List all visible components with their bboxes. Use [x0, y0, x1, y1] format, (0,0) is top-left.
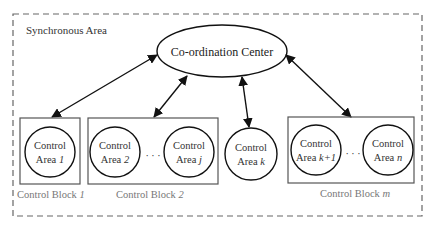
- control-area-n-line2: Area n: [374, 152, 402, 163]
- coordination-center-label: Co-ordination Center: [171, 45, 273, 59]
- control-area-2-line2: Area 2: [101, 154, 130, 165]
- control-area-k-line1: Control: [235, 142, 267, 153]
- control-area-1: [25, 127, 75, 177]
- arrow-center-block1: [52, 55, 157, 117]
- control-block-1-label: Control Block 1: [17, 189, 85, 200]
- control-block-2-label: Control Block 2: [116, 189, 184, 200]
- control-area-n: [363, 125, 413, 175]
- arrow-center-areak: [242, 77, 249, 127]
- ellipsis-block2: · · ·: [146, 150, 161, 161]
- control-area-k1-line1: Control: [300, 138, 332, 149]
- control-block-m-label: Control Block m: [320, 188, 390, 199]
- control-area-1-line2: Area 1: [36, 154, 64, 165]
- control-area-k1-line2: Area k+1: [296, 152, 336, 163]
- arrow-center-block2: [154, 76, 187, 117]
- control-area-j-line2: Area j: [176, 154, 202, 165]
- control-area-j: [164, 127, 214, 177]
- control-area-j-line1: Control: [173, 140, 205, 151]
- control-area-k-line2: Area k: [237, 156, 265, 167]
- control-area-k1: [291, 125, 341, 175]
- arrow-center-blockm: [286, 55, 351, 117]
- diagram-canvas: Synchronous Area Co-ordination Center Co…: [0, 0, 432, 229]
- control-area-k: [225, 128, 277, 180]
- control-area-2: [90, 127, 140, 177]
- control-area-2-line1: Control: [99, 140, 131, 151]
- ellipsis-blockm: · · ·: [346, 148, 361, 159]
- control-area-1-line1: Control: [34, 140, 66, 151]
- control-area-n-line1: Control: [372, 138, 404, 149]
- synchronous-area-label: Synchronous Area: [26, 24, 107, 36]
